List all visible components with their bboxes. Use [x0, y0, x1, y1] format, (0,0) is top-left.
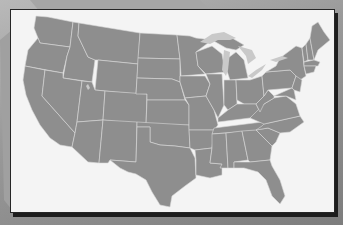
state-maine[interactable] — [310, 22, 330, 60]
state-mississippi[interactable] — [210, 133, 228, 168]
state-colorado[interactable] — [103, 91, 147, 125]
us-map — [0, 0, 343, 225]
state-new-mexico[interactable] — [99, 120, 137, 163]
state-iowa[interactable] — [180, 76, 210, 98]
state-kansas[interactable] — [146, 100, 189, 125]
state-florida[interactable] — [234, 160, 285, 204]
state-north-dakota[interactable] — [138, 33, 180, 59]
state-arkansas[interactable] — [189, 130, 214, 150]
state-connecticut-rhode-island[interactable] — [304, 66, 316, 74]
state-arizona[interactable] — [72, 120, 103, 163]
state-wyoming[interactable] — [95, 60, 138, 94]
